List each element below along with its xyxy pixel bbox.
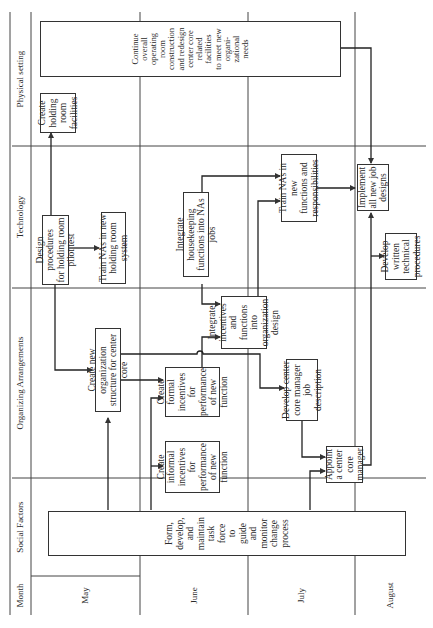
box-informal-incentives-text: Create informal incentives for performan… — [166, 442, 219, 492]
box-formal-incentives-text: Create formal incentives for performance… — [166, 368, 219, 416]
box-technical-procedures: Develop written technical procedures — [385, 233, 417, 280]
box-informal-incentives: Create informal incentives for performan… — [165, 441, 220, 493]
box-appoint-manager: Appoint a center core manager — [326, 446, 363, 483]
box-new-org-structure: Create new organization structure for ce… — [95, 328, 121, 412]
box-new-org-structure-text: Create new organization structure for ce… — [96, 329, 120, 411]
box-train-holding-text: Train NAs in new holding room system — [102, 213, 125, 283]
month-august: August — [355, 576, 426, 615]
box-manager-job-desc-text: Develop center core manager job descript… — [287, 360, 317, 420]
box-train-new-functions: Train NAs in new functions and responsib… — [281, 154, 317, 222]
box-implement-jobs-text: Implement all new job designs — [358, 165, 388, 210]
box-manager-job-desc: Develop center core manager job descript… — [286, 359, 318, 421]
lane-label-technology: Technology — [10, 146, 31, 288]
box-implement-jobs: Implement all new job designs — [357, 164, 389, 211]
lane-header-month: Month — [10, 576, 31, 615]
box-design-procedures-text: Design procedures for holding room pilot… — [43, 216, 68, 284]
box-holding-room-facilities: Create holding room facilities — [40, 93, 76, 133]
box-technical-procedures-text: Develop written technical procedures — [386, 234, 416, 279]
box-continue-construction: Continue overall operating room construc… — [40, 21, 341, 77]
box-integrate-housekeeping: Integrate housekeeping functions into NA… — [183, 192, 209, 277]
box-design-procedures: Design procedures for holding room pilot… — [42, 215, 69, 285]
lane-label-social-factors: Social Factors — [10, 478, 31, 576]
box-train-holding: Train NAs in new holding room system — [101, 212, 126, 284]
box-integrate-incentives: Integrate incentives and functions into … — [221, 296, 267, 349]
box-formal-incentives: Create formal incentives for performance… — [165, 367, 220, 417]
month-june: June — [140, 576, 248, 615]
lane-label-physical-setting: Physical setting — [10, 12, 31, 146]
box-task-force: Form, develop, and maintain task force t… — [48, 511, 406, 556]
box-integrate-incentives-text: Integrate incentives and functions into … — [222, 297, 266, 348]
month-may: May — [31, 576, 140, 615]
box-holding-room-facilities-text: Create holding room facilities — [41, 94, 75, 132]
box-train-new-functions-text: Train NAs in new functions and responsib… — [282, 155, 316, 221]
month-july: July — [248, 576, 355, 615]
box-integrate-housekeeping-text: Integrate housekeeping functions into NA… — [184, 193, 208, 276]
lane-label-organizing-arrangements: Organizing Arrangements — [10, 288, 31, 478]
box-continue-construction-text: Continue overall operating room construc… — [41, 22, 340, 76]
box-task-force-text: Form, develop, and maintain task force t… — [49, 512, 405, 555]
swimlane-diagram: Month Social Factors Organizing Arrangem… — [0, 0, 433, 628]
box-appoint-manager-text: Appoint a center core manager — [327, 447, 362, 482]
